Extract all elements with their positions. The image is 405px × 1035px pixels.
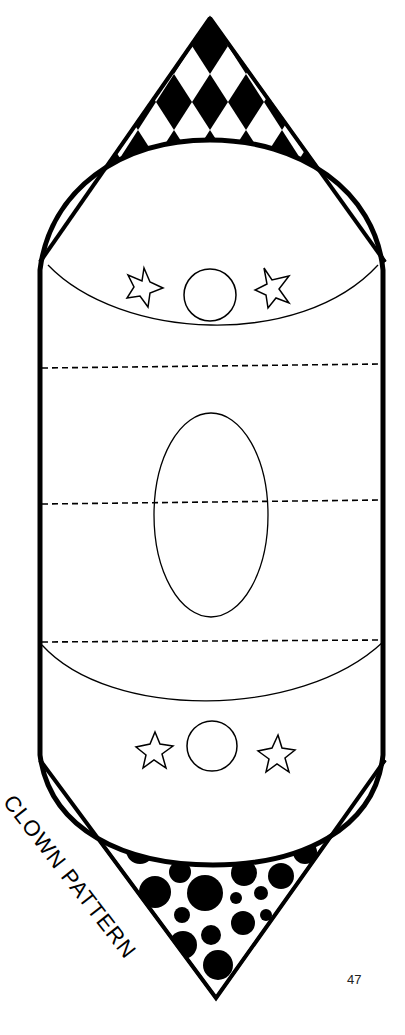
page-number: 47 [347, 972, 361, 987]
body-outline [40, 140, 383, 865]
